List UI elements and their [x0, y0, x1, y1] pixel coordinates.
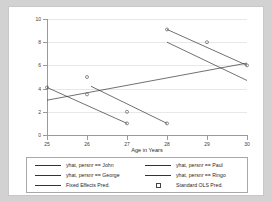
- x-tick-mark: [247, 136, 248, 140]
- y-tick-label: 10: [21, 16, 41, 22]
- legend-item[interactable]: Fixed Effects Pred.: [27, 180, 137, 190]
- x-axis-title: Age in Years: [47, 147, 247, 154]
- series-line: [47, 63, 247, 100]
- x-tick-mark: [87, 136, 88, 140]
- legend-line-key-icon: [143, 160, 173, 170]
- legend-line-key-icon: [33, 160, 63, 170]
- legend-row: Fixed Effects Pred.Standard OLS Pred.: [27, 180, 247, 190]
- legend-row: yhat, persnr == Johnyhat, persnr == Paul: [27, 160, 247, 170]
- legend-square-marker-icon: [143, 180, 173, 190]
- graph-region: 0246810252627282930 Age in Years: [21, 13, 253, 153]
- x-tick-mark: [167, 136, 168, 140]
- data-point-marker: [206, 41, 209, 44]
- series-line: [167, 42, 247, 80]
- legend-line-key-icon: [143, 170, 173, 180]
- chart-card: 0246810252627282930 Age in Years yhat, p…: [8, 6, 264, 196]
- legend-label: yhat, persnr == John: [66, 162, 114, 169]
- y-tick-label: 8: [21, 39, 41, 45]
- legend-label: Fixed Effects Pred.: [66, 182, 110, 189]
- legend-item[interactable]: yhat, persnr == Ringo: [137, 170, 247, 180]
- legend-item[interactable]: yhat, persnr == John: [27, 160, 137, 170]
- legend-line-key-icon: [33, 170, 63, 180]
- data-point-marker: [86, 76, 89, 79]
- x-axis-line: [47, 135, 248, 136]
- data-point-marker: [126, 110, 129, 113]
- y-tick-label: 2: [21, 109, 41, 115]
- legend-line-key-icon: [33, 180, 63, 190]
- y-tick-label: 6: [21, 62, 41, 68]
- y-tick-label: 0: [21, 132, 41, 138]
- chart-page: 0246810252627282930 Age in Years yhat, p…: [0, 0, 272, 202]
- data-point-marker: [166, 28, 169, 31]
- data-point-marker: [86, 93, 89, 96]
- legend-label: yhat, persnr == George: [66, 172, 120, 179]
- legend-label: yhat, persnr == Paul: [176, 162, 223, 169]
- x-tick-mark: [207, 136, 208, 140]
- legend-item[interactable]: yhat, persnr == George: [27, 170, 137, 180]
- y-tick-label: 4: [21, 86, 41, 92]
- series-line: [91, 86, 167, 123]
- x-tick-mark: [47, 136, 48, 140]
- legend-label: Standard OLS Pred.: [176, 182, 223, 189]
- legend-item[interactable]: yhat, persnr == Paul: [137, 160, 247, 170]
- legend-row: yhat, persnr == Georgeyhat, persnr == Ri…: [27, 170, 247, 180]
- chart-legend: yhat, persnr == Johnyhat, persnr == Paul…: [26, 157, 248, 193]
- series-line: [167, 29, 247, 65]
- x-tick-mark: [127, 136, 128, 140]
- legend-item[interactable]: Standard OLS Pred.: [137, 180, 247, 190]
- legend-label: yhat, persnr == Ringo: [176, 172, 226, 179]
- data-overlay: [47, 19, 247, 135]
